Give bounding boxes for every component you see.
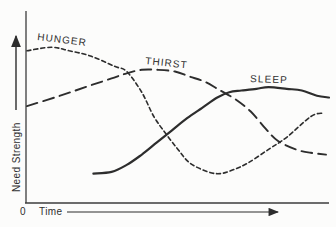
curve-label-sleep: SLEEP [250, 73, 288, 85]
curve-label-hunger: HUNGER [37, 31, 88, 48]
chart-canvas: HUNGER THIRST SLEEP Need Strength 0 Time [0, 0, 336, 227]
curve-label-thirst: THIRST [145, 55, 189, 70]
y-axis-label: Need Strength [11, 122, 22, 192]
need-strength-figure: HUNGER THIRST SLEEP Need Strength 0 Time [0, 0, 336, 227]
x-axis-label: Time [39, 206, 62, 217]
curve-sleep [93, 87, 329, 174]
origin-label: 0 [20, 206, 26, 217]
